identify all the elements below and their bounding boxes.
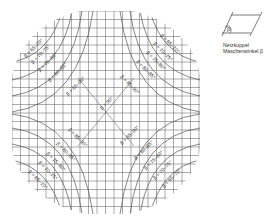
mesh-angle-legend-icon <box>222 12 262 36</box>
label-center: β = 90° <box>98 95 114 111</box>
legend-caption: Netzkuppel Maschenwinkel β <box>223 42 263 55</box>
label-tl-4: β = 85–90° <box>64 75 86 97</box>
net-dome-diagram: β = 65–70° β = 70–75° β = 75–80° β = 80–… <box>0 0 267 221</box>
legend-title-line2: Maschenwinkel β <box>223 48 263 54</box>
zone-labels: β = 65–70° β = 70–75° β = 75–80° β = 80–… <box>22 32 182 190</box>
label-br-0: β = 85–90° <box>118 124 140 146</box>
label-tl-3: β = 80–85° <box>46 61 68 83</box>
label-bl-0: β = 85–90° <box>67 126 89 148</box>
beta-symbol: β <box>227 26 230 32</box>
